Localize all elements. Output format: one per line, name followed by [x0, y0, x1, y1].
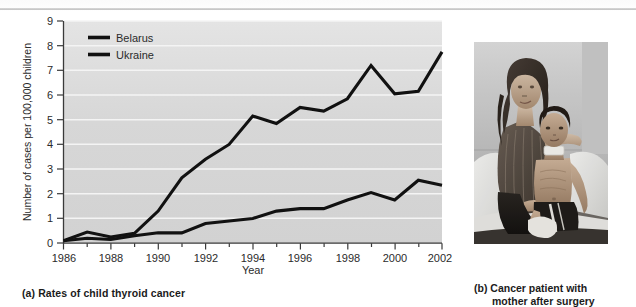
- x-tick-label: 1994: [241, 252, 265, 264]
- x-tick-label: 1988: [99, 252, 123, 264]
- y-tick-label: 9: [47, 15, 53, 27]
- x-tick-label: 1990: [146, 252, 170, 264]
- y-tick-label: 0: [47, 237, 53, 249]
- line-chart: 9 8 7 6 5 4 3 2 1 0: [0, 10, 460, 275]
- x-tick-label: 1998: [336, 252, 360, 264]
- y-axis-ticks: [57, 21, 63, 243]
- y-tick-label: 8: [47, 40, 53, 52]
- panel-b-caption: (b) Cancer patient withmother after surg…: [474, 282, 595, 307]
- x-tick-label: 1986: [52, 252, 76, 264]
- photograph-image: [474, 42, 608, 244]
- legend-label-ukraine: Ukraine: [116, 49, 154, 61]
- x-tick-label: 1996: [288, 252, 312, 264]
- y-tick-label: 1: [47, 212, 53, 224]
- panel-b-caption-line1: (b) Cancer patient with: [474, 282, 587, 294]
- x-tick-label: 2000: [383, 252, 407, 264]
- y-tick-label: 4: [47, 138, 53, 150]
- photograph: [474, 42, 608, 244]
- y-tick-label: 2: [47, 188, 53, 200]
- x-tick-label: 2002: [428, 252, 452, 264]
- x-tick-label: 1992: [194, 252, 218, 264]
- panel-b-photo: (b) Cancer patient withmother after surg…: [460, 10, 636, 301]
- y-tick-label: 6: [47, 89, 53, 101]
- x-axis-label: Year: [242, 264, 265, 275]
- x-axis-ticks: [64, 243, 443, 249]
- y-tick-label: 5: [47, 114, 53, 126]
- y-tick-label: 7: [47, 64, 53, 76]
- panel-a-chart: 9 8 7 6 5 4 3 2 1 0: [0, 10, 460, 301]
- legend-label-belarus: Belarus: [116, 32, 154, 44]
- y-tick-label: 3: [47, 163, 53, 175]
- panel-b-caption-line2: mother after surgery: [474, 295, 595, 307]
- panel-a-caption: (a) Rates of child thyroid cancer: [22, 287, 185, 299]
- y-axis-label: Number of cases per 100,000 children: [21, 43, 33, 221]
